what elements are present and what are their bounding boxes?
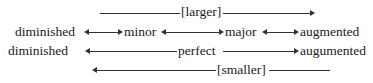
larger-line-left xyxy=(100,13,180,14)
smaller-line-left xyxy=(96,70,216,71)
larger-label: [larger] xyxy=(181,4,221,20)
arrowhead-right-icon xyxy=(310,10,315,16)
arrowhead-right-icon xyxy=(219,29,224,35)
arrowhead-right-icon xyxy=(294,48,299,54)
augumented-label: augumented xyxy=(300,43,366,59)
minor-label: minor xyxy=(124,24,156,40)
perfect-label: perfect xyxy=(178,43,215,59)
dim-minor-line xyxy=(88,32,119,33)
major-label: major xyxy=(225,24,257,40)
smaller-line-right xyxy=(269,70,330,71)
smaller-label: [smaller] xyxy=(217,62,266,78)
dim-perfect-line xyxy=(89,51,177,52)
arrowhead-right-icon xyxy=(118,29,123,35)
minor-major-line xyxy=(165,32,220,33)
augmented-label: augmented xyxy=(300,24,359,40)
diminished-label-2: diminished xyxy=(8,43,68,59)
larger-line-right xyxy=(223,13,311,14)
diminished-label-1: diminished xyxy=(15,24,75,40)
arrowhead-right-icon xyxy=(294,29,299,35)
perfect-aug-line xyxy=(223,51,295,52)
major-aug-line xyxy=(266,32,295,33)
